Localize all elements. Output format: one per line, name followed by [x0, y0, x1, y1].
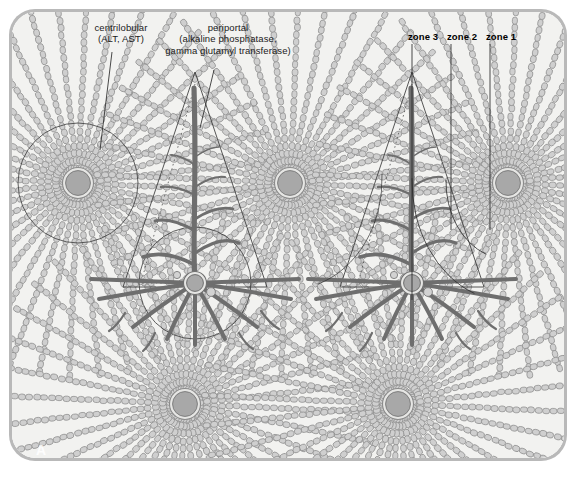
hepatocyte	[263, 405, 270, 411]
hepatocyte	[95, 78, 102, 86]
hepatocyte	[500, 143, 506, 151]
hepatocyte	[349, 173, 356, 179]
hepatocyte	[67, 106, 73, 114]
hepatocyte	[519, 113, 525, 121]
hepatocyte	[100, 55, 107, 63]
hepatocyte	[12, 393, 18, 399]
hepatocyte	[528, 63, 535, 71]
hepatocyte	[541, 385, 549, 391]
hepatocyte	[286, 217, 292, 224]
hepatocyte	[84, 135, 90, 143]
hepatocyte	[509, 84, 515, 91]
label-zone-3: zone 3	[408, 31, 438, 42]
hepatocyte	[284, 232, 290, 239]
hepatocyte	[71, 135, 77, 143]
hepatocyte	[203, 422, 211, 428]
hepatocyte	[393, 438, 399, 445]
hepatocyte	[27, 419, 35, 425]
hepatocyte	[100, 410, 108, 416]
hepatocyte	[292, 231, 298, 239]
hepatocyte	[515, 128, 522, 136]
hepatocyte	[520, 387, 528, 393]
hepatocyte	[285, 379, 293, 386]
hepatocyte	[431, 189, 439, 195]
hepatocyte	[95, 202, 103, 208]
hepatocyte	[292, 406, 299, 412]
hepatocyte	[404, 356, 410, 364]
hepatocyte	[417, 162, 425, 168]
hepatocyte	[184, 348, 190, 355]
hepatocyte	[546, 432, 554, 439]
hepatocyte	[77, 128, 83, 135]
hepatocyte	[80, 231, 86, 239]
hepatocyte	[445, 411, 453, 418]
hepatocyte	[57, 17, 64, 25]
hepatocyte	[93, 411, 101, 417]
hepatocyte	[424, 163, 432, 170]
hepatocyte	[508, 98, 514, 105]
hepatocyte	[133, 149, 141, 156]
hepatocyte	[219, 219, 226, 227]
hepatocyte	[510, 224, 516, 232]
hepatocyte	[164, 238, 171, 246]
hepatocyte	[273, 61, 279, 69]
hepatocyte	[460, 185, 468, 191]
hepatocyte	[123, 388, 131, 395]
hepatocyte	[417, 398, 425, 404]
hepatocyte	[129, 399, 136, 405]
hepatocyte	[116, 173, 123, 179]
hepatocyte	[12, 188, 16, 194]
hepatocyte	[72, 378, 80, 385]
hepatocyte	[390, 356, 396, 364]
hepatocyte	[497, 364, 503, 371]
hepatocyte	[160, 209, 166, 217]
hepatocyte	[548, 384, 556, 390]
hepatocyte	[499, 320, 505, 327]
hepatocyte	[320, 200, 328, 206]
hepatocyte	[235, 367, 243, 374]
hepatocyte	[433, 211, 440, 219]
hepatocyte	[292, 91, 297, 98]
hepatocyte	[491, 54, 497, 62]
hepatocyte	[438, 395, 446, 401]
figure-root: A centrilobular (ALT, AST) periportal (a…	[0, 0, 583, 479]
hepatocyte	[510, 76, 516, 83]
hepatocyte	[217, 393, 224, 399]
hepatocyte	[398, 341, 404, 348]
hepatocyte	[329, 387, 337, 394]
hepatocyte	[490, 391, 498, 397]
hepatocyte	[502, 239, 508, 246]
hepatocyte	[399, 319, 405, 326]
hepatocyte	[78, 412, 86, 418]
hepatocyte	[500, 135, 506, 143]
hepatocyte	[112, 144, 120, 151]
hepatocyte	[278, 106, 284, 114]
hepatocyte	[313, 202, 321, 208]
hepatocyte	[274, 68, 280, 76]
hepatocyte	[177, 356, 183, 364]
hepatocyte	[89, 311, 96, 319]
hepatocyte	[503, 423, 511, 429]
hepatocyte	[74, 209, 79, 216]
hepatocyte	[299, 397, 306, 403]
hepatocyte	[291, 389, 299, 395]
hepatocyte	[268, 12, 274, 17]
hepatocyte	[319, 172, 326, 177]
hepatocyte	[213, 165, 221, 172]
hepatocyte	[542, 182, 549, 187]
hepatocyte	[510, 68, 516, 75]
hepatocyte	[167, 268, 173, 276]
hepatocyte	[468, 184, 476, 190]
hepatocyte	[482, 391, 490, 397]
hepatocyte	[389, 349, 395, 357]
hepatocyte	[168, 193, 176, 199]
hepatocyte	[186, 437, 192, 445]
hepatocyte	[73, 232, 79, 239]
hepatocyte	[310, 63, 317, 71]
hepatocyte	[302, 312, 309, 320]
hepatocyte	[37, 179, 44, 185]
hepatocyte	[505, 389, 513, 395]
hepatocyte	[525, 77, 532, 85]
hepatocyte	[331, 183, 338, 189]
hepatocyte	[60, 39, 66, 47]
